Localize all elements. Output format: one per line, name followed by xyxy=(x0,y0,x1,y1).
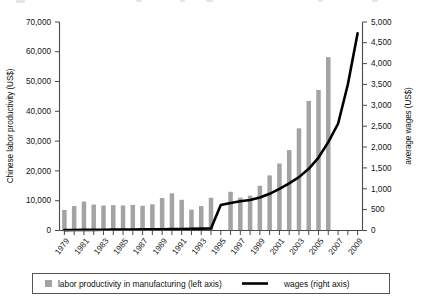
x-tick-label-2005: 2005 xyxy=(307,236,326,256)
left-axis-ticks xyxy=(55,22,60,231)
china-productivity-wages-chart: Chinese labor productivity (US$) 0 10,00… xyxy=(0,0,422,299)
bar-2002 xyxy=(287,150,292,230)
bar-1989 xyxy=(160,198,165,230)
clipped-caption-remnant xyxy=(16,0,378,3)
right-tick-2500: 2,500 xyxy=(371,122,392,131)
right-tick-4500: 4,500 xyxy=(371,38,392,47)
x-tick-label-1987: 1987 xyxy=(131,236,150,256)
left-tick-50000: 50,000 xyxy=(26,77,51,86)
bar-1981 xyxy=(82,202,87,231)
bar-1983 xyxy=(101,205,106,230)
left-tick-0: 0 xyxy=(46,226,51,235)
bar-1980 xyxy=(72,206,77,230)
figure-container: Chinese labor productivity (US$) 0 10,00… xyxy=(0,0,422,299)
x-tick-label-1991: 1991 xyxy=(170,236,189,256)
x-axis-tick-labels: 1979198119831985198719891991199319951997… xyxy=(53,236,365,256)
x-tick-label-1997: 1997 xyxy=(229,236,248,256)
x-tick-label-1995: 1995 xyxy=(210,236,229,256)
bar-2001 xyxy=(277,163,282,230)
right-tick-0: 0 xyxy=(371,226,376,235)
bar-1982 xyxy=(91,205,96,231)
left-tick-60000: 60,000 xyxy=(26,47,51,56)
legend-swatch-productivity xyxy=(45,280,52,287)
x-tick-label-1979: 1979 xyxy=(53,236,72,256)
left-tick-20000: 20,000 xyxy=(26,167,51,176)
bar-1988 xyxy=(150,204,155,230)
right-axis-tick-labels: 0 500 1,000 1,500 2,000 2,500 3,000 3,50… xyxy=(371,18,392,235)
x-tick-label-1989: 1989 xyxy=(151,236,170,256)
bar-1984 xyxy=(111,205,116,230)
bar-1987 xyxy=(140,206,145,231)
left-tick-70000: 70,000 xyxy=(26,18,51,27)
bar-1979 xyxy=(62,210,67,231)
bar-1993 xyxy=(199,206,204,230)
bar-2000 xyxy=(267,175,272,230)
bar-1991 xyxy=(179,200,184,231)
bar-1986 xyxy=(131,205,136,231)
x-tick-label-2003: 2003 xyxy=(288,236,307,256)
left-axis-group: Chinese labor productivity (US$) 0 10,00… xyxy=(6,18,60,235)
legend-label-productivity: labor productivity in manufacturing (lef… xyxy=(58,279,222,289)
right-tick-500: 500 xyxy=(371,205,385,214)
x-tick-label-2009: 2009 xyxy=(346,236,365,256)
bar-1990 xyxy=(170,193,175,230)
x-tick-label-1999: 1999 xyxy=(249,236,268,256)
bar-1985 xyxy=(121,205,126,230)
left-tick-10000: 10,000 xyxy=(26,196,51,205)
right-tick-1500: 1,500 xyxy=(371,164,392,173)
left-axis-title: Chinese labor productivity (US$) xyxy=(6,68,15,183)
x-tick-label-1981: 1981 xyxy=(73,236,92,256)
right-tick-3500: 3,500 xyxy=(371,80,392,89)
right-tick-3000: 3,000 xyxy=(371,101,392,110)
left-tick-30000: 30,000 xyxy=(26,137,51,146)
right-tick-5000: 5,000 xyxy=(371,18,392,27)
right-axis-title: average wages (US$) xyxy=(404,87,413,165)
bar-1999 xyxy=(258,186,263,231)
right-tick-2000: 2,000 xyxy=(371,143,392,152)
x-tick-label-1983: 1983 xyxy=(92,236,111,256)
right-tick-4000: 4,000 xyxy=(371,59,392,68)
x-tick-label-2001: 2001 xyxy=(268,236,287,256)
x-axis-ticks xyxy=(64,231,357,236)
x-tick-label-2007: 2007 xyxy=(327,236,346,256)
x-tick-label-1985: 1985 xyxy=(112,236,131,256)
legend-label-wages: wages (right axis) xyxy=(283,279,350,289)
x-axis-group: 1979198119831985198719891991199319951997… xyxy=(53,231,365,257)
right-axis-ticks xyxy=(363,22,368,231)
bars-layer xyxy=(62,57,330,230)
left-axis-tick-labels: 0 10,000 20,000 30,000 40,000 50,000 60,… xyxy=(26,18,51,235)
x-tick-label-1993: 1993 xyxy=(190,236,209,256)
right-axis-group: average wages (US$) 0 500 1,000 1,500 2, xyxy=(363,18,414,235)
bar-1996 xyxy=(228,192,233,231)
chart-legend: labor productivity in manufacturing (lef… xyxy=(33,274,390,294)
left-tick-40000: 40,000 xyxy=(26,107,51,116)
right-tick-1000: 1,000 xyxy=(371,185,392,194)
bar-1992 xyxy=(189,210,194,231)
